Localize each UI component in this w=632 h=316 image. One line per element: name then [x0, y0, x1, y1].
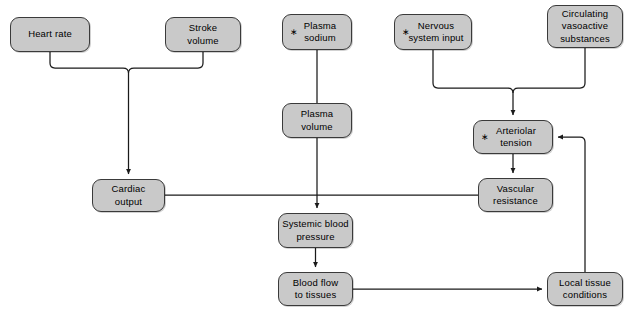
asterisk-marker-icon: ∗: [481, 133, 489, 142]
node-label: Vascular resistance: [490, 183, 541, 208]
edge-vasoactive-to-arteriolar-tension: [513, 48, 585, 93]
node-label: Local tissue conditions: [556, 277, 614, 302]
node-local_tissue: Local tissue conditions: [547, 272, 623, 306]
edge-stroke-volume-to-cardiac-output: [129, 52, 204, 73]
node-label: Circulating vasoactive substances: [557, 8, 613, 46]
node-blood_flow: Blood flow to tissues: [278, 272, 353, 306]
node-cardiac_output: Cardiac output: [92, 179, 165, 212]
node-plasma_volume: Plasma volume: [282, 103, 352, 138]
node-plasma_sodium: ∗Plasma sodium: [282, 14, 352, 50]
node-heart_rate: Heart rate: [10, 17, 90, 52]
flowchart-diagram: Heart rateStroke volume∗Plasma sodium∗Ne…: [0, 0, 632, 316]
asterisk-marker-icon: ∗: [290, 28, 298, 37]
node-label: Systemic blood pressure: [279, 218, 352, 243]
node-systemic_bp: Systemic blood pressure: [278, 213, 353, 248]
edge-nervous-input-to-arteriolar-tension: [433, 50, 513, 115]
node-stroke_volume: Stroke volume: [165, 17, 241, 52]
node-label: Plasma volume: [298, 108, 337, 133]
node-label: Stroke volume: [184, 22, 222, 47]
edge-local-tissue-to-arteriolar-tension: [558, 137, 585, 272]
node-label: Blood flow to tissues: [290, 277, 341, 302]
node-nervous_input: ∗Nervous system input: [394, 14, 472, 50]
node-vascular_resist: Vascular resistance: [478, 178, 553, 212]
node-arteriolar_tension: ∗Arteriolar tension: [473, 120, 553, 154]
node-circ_vasoactive: Circulating vasoactive substances: [547, 5, 623, 48]
node-label: Cardiac output: [109, 183, 149, 208]
node-label: Plasma sodium: [295, 20, 340, 45]
node-label: Heart rate: [25, 28, 75, 41]
asterisk-marker-icon: ∗: [402, 28, 410, 37]
node-label: Arteriolar tension: [487, 125, 539, 150]
edge-heart-rate-to-cardiac-output: [50, 52, 129, 174]
